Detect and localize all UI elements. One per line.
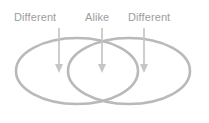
label-different-right: Different (128, 11, 170, 23)
right-set-ellipse (68, 38, 190, 104)
venn-diagram-figure: Different Alike Different (0, 0, 209, 123)
left-annotation-arrow (55, 28, 63, 73)
label-different-left: Different (14, 11, 56, 23)
label-alike: Alike (85, 11, 109, 23)
left-arrow-head-icon (55, 64, 63, 73)
right-annotation-arrow (140, 28, 148, 73)
right-arrow-head-icon (140, 64, 148, 73)
venn-circles-group (16, 38, 190, 104)
middle-annotation-arrow (98, 28, 106, 73)
middle-arrow-head-icon (98, 64, 106, 73)
left-set-ellipse (16, 38, 138, 104)
